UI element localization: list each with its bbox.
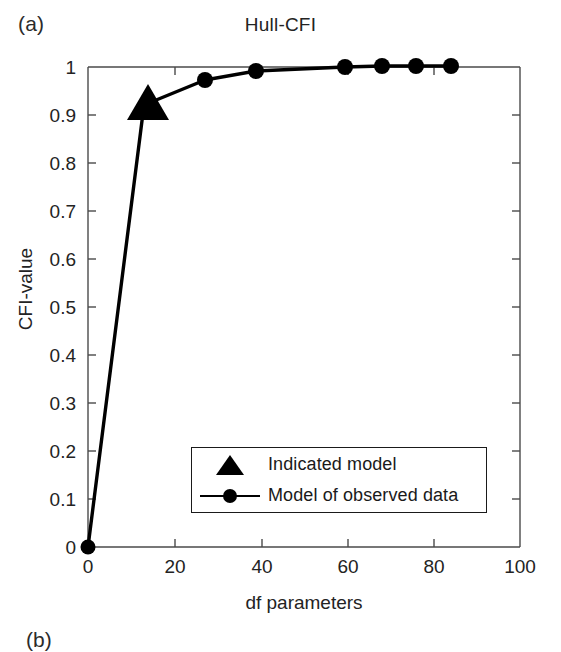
panel-label-b: (b) (26, 628, 52, 652)
legend-item-indicated-model: Indicated model (192, 448, 488, 481)
legend-label-observed-data: Model of observed data (268, 485, 458, 506)
data-point-marker (408, 58, 424, 74)
chart-legend: Indicated model Model of observed data (191, 447, 487, 513)
line-circle-marker-icon (192, 479, 268, 512)
data-point-marker (248, 63, 264, 79)
y-axis-ticks-right (512, 115, 520, 499)
data-point-marker (337, 59, 353, 75)
triangle-marker-icon (192, 448, 268, 481)
data-point-marker (443, 58, 459, 74)
data-point-marker (81, 540, 96, 555)
data-point-marker (374, 58, 390, 74)
x-axis-ticks (175, 539, 434, 547)
data-point-marker (197, 72, 213, 88)
y-axis-ticks (88, 115, 96, 499)
legend-item-observed-data: Model of observed data (192, 479, 488, 512)
indicated-model-triangle-marker (127, 84, 169, 120)
legend-label-indicated-model: Indicated model (268, 454, 397, 475)
